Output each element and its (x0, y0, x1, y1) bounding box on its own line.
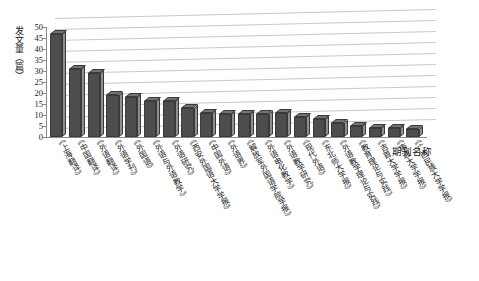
y-tick-mark (43, 60, 46, 61)
bar-front-face (294, 117, 306, 137)
bar-side-face (137, 94, 141, 137)
y-tick-label: 35 (23, 56, 43, 64)
bar-front-face (200, 113, 212, 137)
y-tick-label: 15 (23, 100, 43, 108)
y-tick-mark (43, 49, 46, 50)
bar-side-face (250, 111, 254, 137)
bar (238, 114, 250, 137)
bar (275, 113, 287, 137)
bar (313, 119, 325, 137)
bar (219, 114, 231, 137)
y-tick-mark (43, 38, 46, 39)
y-axis-line (46, 27, 47, 137)
bar-front-face (69, 69, 81, 137)
bar-side-face (62, 30, 66, 137)
plot-area: 50454035302520151050 (46, 18, 436, 137)
bar (50, 34, 62, 137)
y-tick-mark (43, 137, 46, 138)
bar-front-face (163, 101, 175, 137)
y-tick-mark (43, 104, 46, 105)
bar-front-face (144, 101, 156, 137)
y-tick-label: 45 (23, 34, 43, 42)
bar (200, 113, 212, 137)
bar-front-face (125, 97, 137, 137)
bar (144, 101, 156, 137)
gridline (55, 75, 436, 85)
y-tick-mark (43, 82, 46, 83)
bar-front-face (181, 108, 193, 137)
bar (69, 69, 81, 137)
gridline (55, 9, 436, 19)
bar-front-face (275, 113, 287, 137)
gridline (55, 31, 436, 41)
x-axis-line (46, 137, 427, 138)
bar (163, 101, 175, 137)
y-tick-label: 20 (23, 89, 43, 97)
x-axis-title: 期刊名称 (392, 144, 432, 158)
bar-front-face (256, 114, 268, 137)
bar-front-face (331, 123, 343, 137)
bar-front-face (313, 119, 325, 137)
bar (331, 123, 343, 137)
gridline (55, 42, 436, 52)
bar-side-face (175, 98, 179, 137)
y-tick-mark (43, 71, 46, 72)
bar-front-face (238, 114, 250, 137)
bar-side-face (156, 98, 160, 137)
gridline (55, 53, 436, 63)
bar (125, 97, 137, 137)
gridline (55, 20, 436, 30)
bar-side-face (231, 111, 235, 137)
y-tick-label: 0 (23, 133, 43, 141)
bar-front-face (219, 114, 231, 137)
bar-chart: 发文量（篇） 50454035302520151050 《上海翻译》《中国翻译》… (0, 0, 479, 281)
x-axis-labels: 《上海翻译》《中国翻译》《外语翻译》《外语学刊》《外国语》《外语与外语教学》《外… (46, 140, 446, 265)
bar-side-face (287, 110, 291, 137)
bar-side-face (269, 111, 273, 137)
bar-side-face (306, 114, 310, 137)
bar (106, 95, 118, 137)
y-tick-label: 50 (23, 23, 43, 31)
bar (256, 114, 268, 137)
bar-side-face (194, 105, 198, 137)
bar-side-face (119, 92, 123, 137)
bar-side-face (100, 70, 104, 137)
y-axis-title: 发文量（篇） (8, 26, 24, 80)
y-tick-mark (43, 93, 46, 94)
y-tick-label: 10 (23, 111, 43, 119)
y-tick-mark (43, 27, 46, 28)
bar-side-face (325, 116, 329, 137)
bar-side-face (212, 110, 216, 137)
bar-front-face (106, 95, 118, 137)
y-tick-label: 30 (23, 67, 43, 75)
y-tick-label: 40 (23, 45, 43, 53)
gridline (55, 64, 436, 74)
bar-side-face (81, 66, 85, 137)
y-tick-mark (43, 115, 46, 116)
y-tick-label: 25 (23, 78, 43, 86)
bar (294, 117, 306, 137)
bar (88, 73, 100, 137)
y-tick-mark (43, 126, 46, 127)
bar-front-face (50, 34, 62, 137)
bar (181, 108, 193, 137)
y-tick-label: 5 (23, 122, 43, 130)
bar-front-face (88, 73, 100, 137)
